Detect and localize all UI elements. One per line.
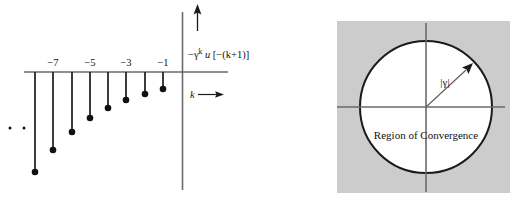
left-panel-group: −7 −5 −3 −1 k −γk u [−(k+1)]: [9, 4, 250, 190]
stem-k-minus7: [50, 72, 57, 153]
stem-k-minus2: [142, 72, 149, 97]
figure-root: −7 −5 −3 −1 k −γk u [−(k+1)]: [0, 0, 526, 200]
stem-k-minus1: [160, 72, 167, 92]
up-arrow-icon: [194, 4, 202, 31]
radius-label: |γ|: [440, 76, 449, 88]
svg-text:−γk u [−(k+1)]: −γk u [−(k+1)]: [188, 47, 249, 61]
tick-label-minus1: −1: [157, 57, 168, 68]
stem-k-minus5: [87, 72, 94, 121]
expr-middle: u: [202, 49, 210, 60]
stem-group: [32, 72, 167, 175]
stem-k-minus4: [105, 72, 112, 111]
roc-caption: Region of Convergence: [374, 129, 478, 141]
stem-k-minus3: [123, 72, 130, 103]
tick-label-minus3: −3: [120, 57, 131, 68]
ellipsis-dots: [9, 127, 26, 130]
stem-k-minus8: [32, 72, 39, 175]
k-axis-label: k: [190, 89, 195, 100]
figure-svg: −7 −5 −3 −1 k −γk u [−(k+1)]: [0, 0, 526, 200]
expr-argument: [−(k+1)]: [210, 49, 249, 61]
right-panel-group: |γ| Region of Convergence: [337, 21, 510, 193]
stem-k-minus6: [69, 72, 76, 135]
tick-label-minus5: −5: [84, 57, 95, 68]
tick-label-minus7: −7: [47, 57, 58, 68]
expr-prefix: −γ: [188, 49, 199, 60]
k-axis-arrow-icon: [198, 91, 224, 97]
signal-expression-label: −γk u [−(k+1)]: [188, 47, 249, 61]
